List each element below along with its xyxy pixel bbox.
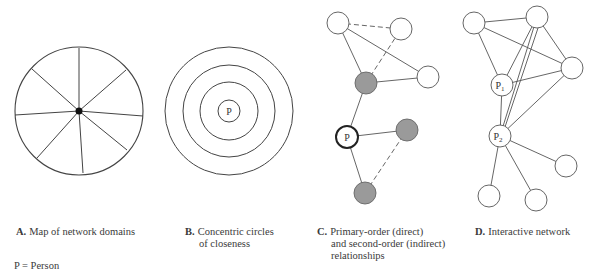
caption-d: D.Interactive network xyxy=(475,226,570,238)
b-person-label: P xyxy=(226,106,232,117)
panel-a-domain-map xyxy=(15,47,143,175)
legend: P = Person xyxy=(14,260,59,271)
panel-c-relationships: P xyxy=(327,12,439,204)
caption-c: C.Primary-order (direct) and second-orde… xyxy=(317,226,445,262)
c-person-label: P xyxy=(344,132,350,143)
caption-a: A.Map of network domains xyxy=(16,226,135,238)
panel-b-concentric-circles: P xyxy=(165,47,293,175)
panel-d-interactive-network: P1 P2 xyxy=(463,6,583,211)
center-dot xyxy=(76,108,83,115)
caption-b: B.Concentric circles of closeness xyxy=(185,226,274,250)
network-diagrams: P P xyxy=(0,0,593,215)
